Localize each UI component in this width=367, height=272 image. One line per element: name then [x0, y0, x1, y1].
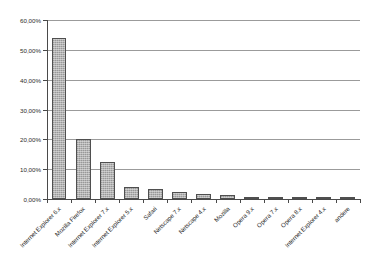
x-tick-mark	[143, 199, 144, 203]
y-tick-label: 40,00%	[0, 76, 41, 83]
x-tick-mark	[191, 199, 192, 203]
bar	[76, 139, 91, 199]
x-tick-mark	[360, 199, 361, 203]
bar	[100, 162, 115, 199]
x-axis-label: Opera 9.x	[231, 205, 255, 229]
gridline	[47, 50, 360, 51]
y-tick-label: 30,00%	[0, 106, 41, 113]
x-tick-mark	[47, 199, 48, 203]
y-tick-mark	[43, 20, 47, 21]
y-axis-line	[47, 20, 48, 200]
x-axis-label: andere	[333, 205, 351, 223]
x-axis-line	[47, 199, 360, 200]
x-tick-mark	[288, 199, 289, 203]
bar-chart: 0,00%10,00%20,00%30,00%40,00%50,00%60,00…	[0, 0, 367, 272]
gridline	[47, 110, 360, 111]
x-tick-mark	[167, 199, 168, 203]
x-tick-mark	[95, 199, 96, 203]
x-axis-label: Safari	[142, 205, 158, 221]
y-tick-label: 60,00%	[0, 17, 41, 24]
bar	[148, 189, 163, 199]
x-tick-mark	[71, 199, 72, 203]
y-tick-label: 0,00%	[0, 196, 41, 203]
x-axis-label: Mozilla	[212, 205, 230, 223]
y-tick-label: 10,00%	[0, 166, 41, 173]
gridline	[47, 20, 360, 21]
x-axis-label: Opera 8.x	[279, 205, 303, 229]
x-axis-label: Internet Explorer 6.x	[18, 205, 62, 249]
y-tick-mark	[43, 169, 47, 170]
y-tick-label: 20,00%	[0, 136, 41, 143]
x-tick-mark	[264, 199, 265, 203]
x-tick-mark	[312, 199, 313, 203]
y-tick-mark	[43, 80, 47, 81]
y-tick-mark	[43, 50, 47, 51]
bar	[52, 38, 67, 199]
x-tick-mark	[336, 199, 337, 203]
y-tick-mark	[43, 139, 47, 140]
plot-area	[47, 20, 360, 199]
x-axis-label: Opera 7.x	[255, 205, 279, 229]
bar	[124, 187, 139, 199]
y-tick-label: 50,00%	[0, 46, 41, 53]
gridline	[47, 169, 360, 170]
gridline	[47, 80, 360, 81]
x-tick-mark	[216, 199, 217, 203]
x-tick-mark	[119, 199, 120, 203]
bar	[172, 192, 187, 199]
gridline	[47, 139, 360, 140]
y-tick-mark	[43, 110, 47, 111]
x-tick-mark	[240, 199, 241, 203]
